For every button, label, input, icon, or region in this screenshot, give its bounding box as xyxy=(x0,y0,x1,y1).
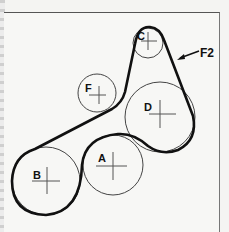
serpentine-belt xyxy=(12,27,194,215)
pulley-label-f: F xyxy=(85,82,92,94)
pulley-label-a: A xyxy=(98,152,106,164)
pulley-label-d: D xyxy=(144,101,152,113)
pulley-label-b: B xyxy=(33,169,41,181)
belt-label: F2 xyxy=(200,46,214,60)
pulley-f: F xyxy=(78,74,116,112)
belt-routing-diagram: F C D A B F2 xyxy=(0,0,229,232)
arrowhead-icon xyxy=(177,54,185,60)
